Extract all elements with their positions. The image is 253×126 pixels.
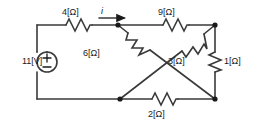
resistor-9ohm-label: 9[Ω] [158, 8, 175, 17]
current-label: i [101, 7, 103, 16]
resistor-4ohm-symbol [66, 19, 92, 31]
resistor-2ohm-label: 2[Ω] [148, 110, 165, 119]
node-bottom-middle [117, 96, 122, 101]
circuit-diagram: 11[V] 4[Ω] i 9[Ω] 6[Ω] 3[Ω] 1[Ω] 2[Ω] [0, 0, 253, 126]
node-top-middle [115, 22, 120, 27]
node-bottom-right [212, 96, 217, 101]
resistor-6ohm-label: 6[Ω] [83, 49, 100, 58]
current-arrow-head [117, 15, 124, 21]
resistor-2ohm-symbol [152, 93, 178, 105]
resistor-3ohm-label: 3[Ω] [168, 57, 185, 66]
resistor-9ohm-symbol [163, 19, 189, 31]
resistor-4ohm-label: 4[Ω] [62, 8, 79, 17]
node-top-right [212, 22, 217, 27]
resistor-6ohm-symbol [126, 33, 150, 55]
resistor-1ohm-symbol [209, 52, 221, 72]
resistor-1ohm-label: 1[Ω] [224, 57, 241, 66]
voltage-source-label: 11[V] [22, 57, 42, 66]
resistor-3ohm-symbol [182, 34, 207, 57]
